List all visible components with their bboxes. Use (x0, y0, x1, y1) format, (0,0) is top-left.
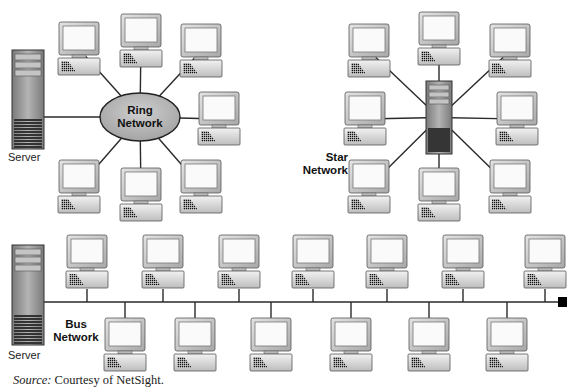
bus-bottom-computer-icon-1 (104, 318, 146, 371)
star-computer-icon-4 (344, 92, 386, 145)
ring-computer-icon-3 (180, 24, 222, 77)
bus-top-computer-icon-5 (366, 235, 408, 288)
star-computer-icon-3 (489, 24, 531, 77)
source-caption: Source: Courtesy of NetSight. (13, 373, 164, 388)
bus-bottom-computer-icon-5 (408, 318, 450, 371)
bus-bottom-computer-icon-2 (174, 318, 216, 371)
ring-label-line2: Network (110, 117, 170, 130)
star-computer-icon-6 (348, 160, 390, 213)
star-computer-icon-1 (348, 24, 390, 77)
star-label-line1: Star (296, 151, 348, 164)
source-text: Courtesy of NetSight. (51, 373, 164, 387)
ring-computer-icon-4 (198, 92, 240, 145)
bus-top-computer-icon-2 (142, 235, 184, 288)
ring-computer-icon-6 (120, 168, 162, 221)
bus-terminator-icon (558, 297, 567, 307)
bus-top-computer-icon-1 (66, 235, 108, 288)
bus-server-label: Server (8, 349, 40, 362)
star-computer-icon-5 (496, 92, 538, 145)
bus-server-icon (12, 245, 44, 345)
bus-top-computer-icon-3 (218, 235, 260, 288)
ring-computer-icon-5 (58, 160, 100, 213)
star-label-line2: Network (296, 164, 348, 177)
ring-computer-icon-7 (180, 160, 222, 213)
bus-top-computer-icon-6 (442, 235, 484, 288)
ring-network-label: Ring Network (110, 104, 170, 130)
source-label: Source: (13, 373, 51, 387)
bus-bottom-computer-icon-6 (486, 318, 528, 371)
bus-label-line2: Network (52, 331, 100, 344)
star-computer-icon-7 (418, 168, 460, 221)
bus-top-computer-icon-4 (292, 235, 334, 288)
star-hub-icon (426, 81, 452, 154)
ring-computer-icon-2 (120, 14, 162, 67)
bus-bottom-computer-icon-4 (330, 318, 372, 371)
ring-label-line1: Ring (110, 104, 170, 117)
ring-server-label: Server (8, 151, 40, 164)
ring-server-icon (12, 50, 44, 149)
ring-computer-icon-1 (58, 22, 100, 75)
bus-label-line1: Bus (52, 318, 100, 331)
bus-bottom-computer-icon-3 (250, 318, 292, 371)
star-computer-icon-8 (489, 160, 531, 213)
star-computer-icon-2 (418, 12, 460, 65)
bus-network-label: Bus Network (52, 318, 100, 344)
bus-top-computer-icon-7 (524, 235, 566, 288)
star-network-label: Star Network (296, 151, 348, 177)
